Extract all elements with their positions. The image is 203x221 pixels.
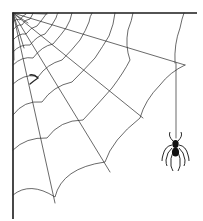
web-spirals (13, 13, 185, 197)
web-frame (13, 13, 197, 219)
web-radials (13, 13, 185, 203)
spider (162, 63, 189, 171)
spider-head (172, 140, 178, 148)
spider-web-illustration (0, 0, 203, 221)
spider-web-clipart (0, 0, 203, 221)
